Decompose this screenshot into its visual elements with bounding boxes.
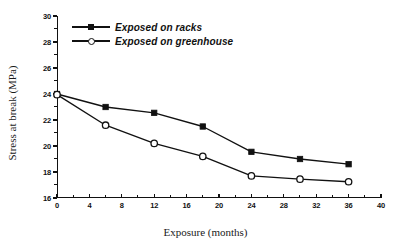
x-tick-label: 16 — [183, 201, 191, 210]
data-point-marker-circle — [248, 173, 254, 179]
legend-label-greenhouse: Exposed on greenhouse — [115, 36, 233, 47]
chart-legend: Exposed on racks Exposed on greenhouse — [72, 20, 233, 48]
y-tick-label: 24 — [43, 90, 51, 99]
series-line — [57, 95, 349, 182]
data-point-marker-circle — [102, 122, 108, 128]
data-point-marker-circle — [297, 176, 303, 182]
x-axis-title: Exposure (months) — [0, 226, 411, 238]
y-tick-label: 28 — [43, 38, 51, 47]
data-point-marker-square — [297, 156, 302, 161]
y-tick-label: 20 — [43, 142, 51, 151]
data-point-marker-square — [200, 124, 205, 129]
x-tick-label: 8 — [120, 201, 124, 210]
x-tick-label: 28 — [280, 201, 288, 210]
x-tick-label: 20 — [215, 201, 223, 210]
data-point-marker-circle — [54, 91, 60, 97]
y-axis-title: Stress at break (MPa) — [6, 33, 18, 193]
data-point-marker-square — [103, 104, 108, 109]
data-point-marker-circle — [151, 140, 157, 146]
x-tick-label: 36 — [345, 201, 353, 210]
x-tick-label: 12 — [150, 201, 158, 210]
x-tick-label: 24 — [247, 201, 255, 210]
data-point-marker-circle — [200, 153, 206, 159]
data-point-marker-square — [152, 110, 157, 115]
x-tick-label: 0 — [55, 201, 59, 210]
x-tick-label: 32 — [312, 201, 320, 210]
x-tick-label: 40 — [377, 201, 385, 210]
y-tick-label: 30 — [43, 12, 51, 21]
y-tick-label: 18 — [43, 168, 51, 177]
data-point-marker-circle — [345, 179, 351, 185]
open-circle-marker-icon — [72, 35, 110, 47]
y-tick-label: 22 — [43, 116, 51, 125]
filled-square-marker-icon — [72, 21, 110, 33]
y-tick-label: 26 — [43, 64, 51, 73]
x-tick-label: 4 — [87, 201, 91, 210]
data-point-marker-square — [249, 149, 254, 154]
y-tick-label: 16 — [43, 194, 51, 203]
legend-label-racks: Exposed on racks — [115, 22, 202, 33]
data-point-marker-square — [346, 162, 351, 167]
legend-item-greenhouse: Exposed on greenhouse — [72, 34, 233, 48]
chart-figure: Stress at break (MPa) 1618202224262830 0… — [0, 0, 411, 251]
legend-item-racks: Exposed on racks — [72, 20, 233, 34]
